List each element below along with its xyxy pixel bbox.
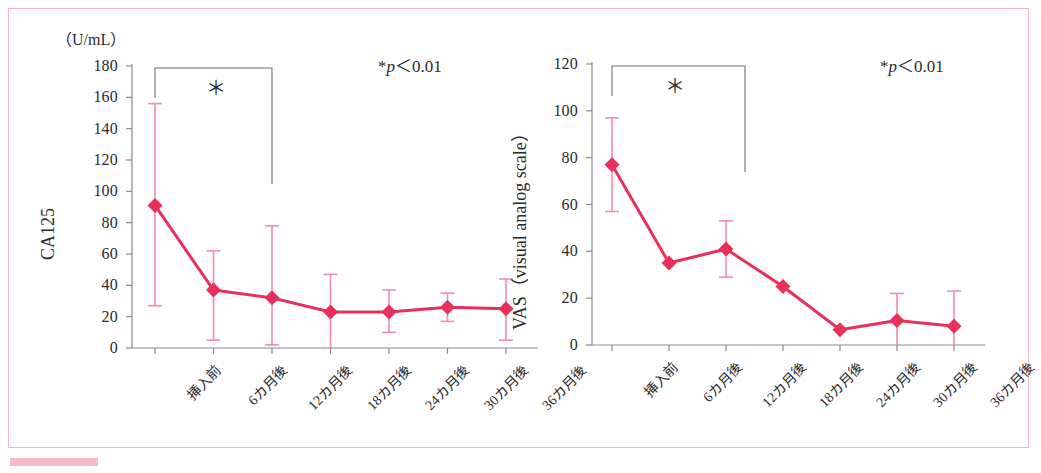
data-point-marker: [382, 304, 397, 319]
y-tick-label: 160: [78, 89, 118, 105]
chart-panel-ca125: （U/mL）CA125020406080100120140160180挿入前6カ…: [10, 0, 515, 440]
y-tick-label: 120: [78, 152, 118, 168]
y-tick-label: 60: [78, 246, 118, 262]
error-bar: [947, 291, 961, 345]
p-value-note: *p＜0.01: [880, 52, 944, 77]
y-tick-label: 60: [538, 197, 578, 213]
y-tick-label: 0: [78, 340, 118, 356]
y-tick-label: 140: [78, 121, 118, 137]
data-point-marker: [605, 157, 620, 172]
y-tick-label: 40: [538, 243, 578, 259]
bottom-accent-bar: [10, 458, 98, 466]
y-tick-label: 180: [78, 58, 118, 74]
data-point-marker: [440, 300, 455, 315]
significance-asterisk: ＊: [665, 76, 685, 96]
p-value-note: *p＜0.01: [378, 52, 442, 77]
data-point-marker: [890, 313, 905, 328]
y-tick-label: 100: [538, 103, 578, 119]
data-point-marker: [719, 241, 734, 256]
y-tick-label: 0: [538, 337, 578, 353]
y-tick-label: 80: [538, 150, 578, 166]
chart-panel-vas: VAS（visual analog scale）020406080100120挿…: [500, 0, 1005, 440]
data-point-marker: [947, 319, 962, 334]
data-point-marker: [265, 290, 280, 305]
error-bar: [265, 226, 279, 345]
y-tick-label: 100: [78, 183, 118, 199]
y-tick-label: 40: [78, 277, 118, 293]
data-point-marker: [323, 304, 338, 319]
y-tick-label: 80: [78, 215, 118, 231]
significance-asterisk: ＊: [206, 78, 226, 98]
data-point-marker: [662, 256, 677, 271]
y-tick-label: 120: [538, 56, 578, 72]
series-line: [612, 165, 954, 330]
y-tick-label: 20: [78, 309, 118, 325]
y-tick-label: 20: [538, 290, 578, 306]
